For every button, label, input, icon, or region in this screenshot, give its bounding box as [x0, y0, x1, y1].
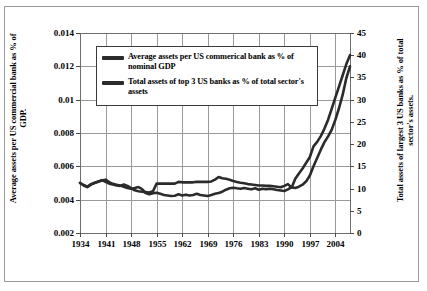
y-axis-right-tick-label: 10 [357, 184, 381, 194]
legend-item-label: Average assets per US commerical bank as… [128, 52, 313, 73]
y-axis-right-tick-label: 30 [357, 95, 381, 105]
y-axis-left-tick-label: 0.012 [30, 61, 74, 71]
y-axis-left-tick-label: 0.008 [30, 128, 74, 138]
y-axis-right-tick-label: 15 [357, 161, 381, 171]
y-axis-left-tick-label: 0.01 [30, 95, 74, 105]
y-axis-right-tick-label: 35 [357, 72, 381, 82]
legend-item-top3-assets: Total assets of top 3 US banks as % of t… [102, 77, 313, 98]
y-axis-left-tick-label: 0.002 [30, 228, 74, 238]
y-axis-right-tick-label: 5 [357, 206, 381, 216]
legend-item-label: Total assets of top 3 US banks as % of t… [128, 77, 313, 98]
chart-legend: Average assets per US commerical bank as… [96, 46, 318, 106]
y-axis-right-tick-label: 45 [357, 28, 381, 38]
y-axis-left-tick-label: 0.006 [30, 161, 74, 171]
y-axis-right-tick-label: 25 [357, 117, 381, 127]
legend-line-swatch-icon [102, 56, 124, 60]
y-axis-right-tick-label: 0 [357, 228, 381, 238]
y-axis-right-title: Total assets of largest 3 US banks as % … [395, 30, 416, 210]
x-axis-tick-label: 2004 [316, 239, 356, 249]
y-axis-right-tick-label: 40 [357, 50, 381, 60]
legend-item-average-assets: Average assets per US commerical bank as… [102, 52, 313, 73]
y-axis-left-tick-label: 0.014 [30, 28, 74, 38]
y-axis-right-tick-label: 20 [357, 139, 381, 149]
y-axis-left-title: Average assets per US commercial bank as… [8, 28, 29, 208]
y-axis-left-tick-label: 0.004 [30, 195, 74, 205]
legend-line-swatch-icon [102, 81, 124, 85]
